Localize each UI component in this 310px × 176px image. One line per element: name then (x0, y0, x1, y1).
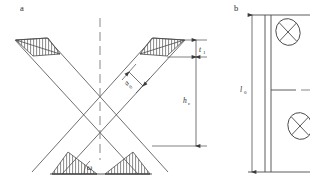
panel-a: a (15, 3, 207, 174)
height-subscript: c (188, 101, 191, 106)
node-marker-lower (284, 109, 310, 142)
height-label: h (183, 96, 187, 105)
node-marker-upper (272, 15, 303, 48)
dimension-height-h: h c (183, 57, 196, 146)
engineering-figure: a (0, 0, 310, 176)
hatched-zone-bottom-right (105, 152, 150, 174)
thickness-subscript: 1 (203, 50, 206, 55)
thickness-label: t (199, 45, 202, 54)
panel-a-label: a (20, 3, 24, 13)
panel-b: b l 0 (234, 3, 310, 172)
hatched-zone-top-right (140, 38, 184, 56)
angle-omega-label: ω (87, 163, 92, 172)
length-label: l (240, 85, 242, 94)
panel-b-label: b (234, 3, 238, 13)
hatched-zone-top-left (16, 38, 60, 56)
dimension-thickness-t1: t 1 (196, 40, 206, 57)
length-subscript: 0 (244, 90, 247, 95)
figure-canvas: a (0, 0, 310, 176)
member-width-subscript: 0 (128, 84, 134, 90)
dimension-length-l0: l 0 (240, 15, 252, 172)
